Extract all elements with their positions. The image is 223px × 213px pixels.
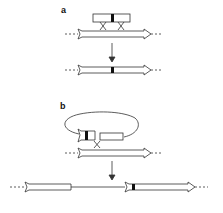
panel-a-down-arrow: [109, 43, 115, 62]
panel-a-chromosome-gene-arrow: [65, 29, 163, 39]
marker-block: [111, 14, 114, 22]
panel-b-plasmid-gene-fragment: [78, 129, 123, 142]
panel-a-insert-fragment: [93, 14, 130, 22]
panel-b-down-arrow: [109, 161, 115, 180]
marker-block: [85, 131, 88, 140]
panel-b-chromosome-gene-arrow: [65, 148, 163, 158]
panel-b-result-truncated-gene: [10, 182, 71, 192]
marker-block: [132, 184, 135, 190]
panel-b-result-marked-gene: [125, 182, 208, 192]
marker-block: [111, 67, 114, 73]
panel-a-crossovers: [100, 22, 124, 30]
panel-a-result-gene-arrow: [65, 65, 163, 75]
diagram-canvas: [0, 0, 223, 213]
panel-b-crossover: [94, 141, 100, 148]
